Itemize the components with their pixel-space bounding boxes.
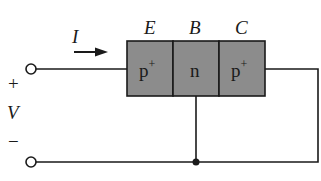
current-label: I	[71, 26, 80, 47]
voltage-label: V	[7, 102, 21, 123]
collector-label: C	[235, 17, 248, 38]
base-label: B	[189, 17, 201, 38]
negative-terminal-icon	[26, 157, 36, 167]
junction-dot	[193, 159, 200, 166]
base-doping-label: n	[190, 60, 200, 81]
current-arrow-icon	[74, 48, 108, 57]
emitter-label: E	[143, 17, 156, 38]
plus-sign: +	[8, 73, 19, 94]
positive-terminal-icon	[26, 64, 36, 74]
minus-sign: −	[8, 131, 19, 152]
transistor-circuit-diagram: p+ n p+ E B C I + V −	[0, 0, 321, 181]
